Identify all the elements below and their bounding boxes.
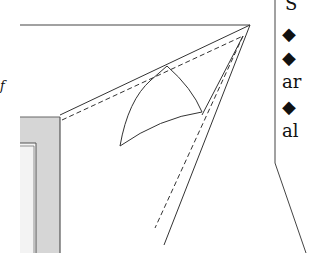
frame-corner xyxy=(20,117,60,253)
left-fragment-text: f xyxy=(0,78,7,93)
lower-ray-solid xyxy=(164,25,250,245)
lower-ray-dashed xyxy=(155,36,243,228)
side-panel-line-ar: ar xyxy=(282,71,302,92)
diagram-canvas: f S ◆ ◆ ar ◆ al xyxy=(0,0,309,253)
upper-ray-solid xyxy=(60,25,250,115)
bullet-diamond-icon-2: ◆ xyxy=(282,47,296,68)
lower-ray-solid-top xyxy=(202,36,243,115)
side-panel-line-1: S xyxy=(285,0,297,14)
side-panel-line-al: al xyxy=(282,120,299,141)
bullet-diamond-icon-3: ◆ xyxy=(282,96,296,117)
upper-ray-dashed xyxy=(62,36,243,120)
curved-triangle-patch xyxy=(120,66,202,146)
side-panel-text: S ◆ ◆ ar ◆ al xyxy=(282,0,302,141)
bullet-diamond-icon-1: ◆ xyxy=(282,23,296,44)
